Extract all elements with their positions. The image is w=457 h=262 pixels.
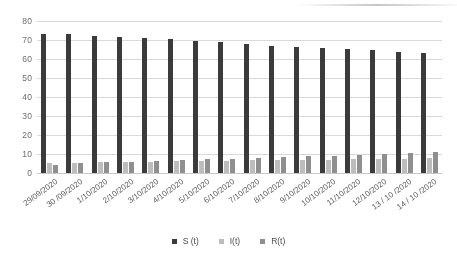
bar-s	[193, 41, 198, 173]
bar-group	[366, 21, 391, 173]
bar-group	[113, 21, 138, 173]
bar-group	[88, 21, 113, 173]
legend-label: I(t)	[230, 236, 240, 246]
bar-s	[320, 48, 325, 173]
bar-s	[66, 34, 71, 173]
bars-layer	[37, 21, 442, 173]
bar-group	[214, 21, 239, 173]
bar-s	[92, 36, 97, 173]
bar-s	[370, 50, 375, 173]
y-tick-label: 0	[27, 168, 32, 178]
bar-group	[240, 21, 265, 173]
bar-i	[250, 160, 255, 173]
y-tick-label: 10	[22, 149, 32, 159]
bar-r	[154, 161, 159, 173]
bar-i	[98, 162, 103, 173]
y-tick-label: 50	[22, 73, 32, 83]
legend-item-s[interactable]: S (t)	[172, 236, 199, 246]
bar-group	[315, 21, 340, 173]
bar-r	[357, 155, 362, 173]
bar-group	[341, 21, 366, 173]
bar-i	[148, 162, 153, 173]
bar-i	[123, 162, 128, 173]
bar-i	[174, 161, 179, 173]
bar-i	[300, 160, 305, 173]
bar-r	[433, 152, 438, 173]
bar-i	[47, 163, 52, 173]
bar-r	[104, 162, 109, 173]
bar-s	[294, 47, 299, 173]
bar-i	[224, 161, 229, 173]
bar-s	[142, 38, 147, 173]
bar-r	[408, 153, 413, 173]
y-tick-label: 60	[22, 54, 32, 64]
bar-r	[230, 159, 235, 173]
bar-s	[421, 53, 426, 173]
bar-i	[326, 160, 331, 173]
bar-group	[189, 21, 214, 173]
y-tick-label: 80	[22, 16, 32, 26]
bar-s	[168, 39, 173, 173]
scan-artifact	[297, 4, 457, 6]
y-tick-label: 20	[22, 130, 32, 140]
legend-swatch-icon	[260, 239, 265, 244]
bar-i	[427, 158, 432, 173]
bar-group	[164, 21, 189, 173]
bar-group	[417, 21, 442, 173]
bar-r	[180, 160, 185, 173]
legend-item-r[interactable]: R(t)	[260, 236, 285, 246]
bar-s	[345, 49, 350, 173]
bar-r	[256, 158, 261, 173]
bar-group	[290, 21, 315, 173]
bar-i	[72, 163, 77, 173]
bar-r	[129, 162, 134, 173]
legend-label: R(t)	[271, 236, 285, 246]
bar-s	[218, 42, 223, 173]
bar-r	[382, 154, 387, 173]
bar-r	[281, 157, 286, 173]
bar-i	[376, 159, 381, 173]
bar-r	[78, 163, 83, 173]
bar-i	[275, 160, 280, 173]
bar-s	[396, 52, 401, 173]
bar-i	[351, 159, 356, 173]
chart-legend: S (t)I(t)R(t)	[0, 236, 457, 246]
bar-s	[244, 44, 249, 173]
bar-i	[402, 159, 407, 173]
y-tick-label: 70	[22, 35, 32, 45]
bar-s	[41, 34, 46, 173]
y-axis-labels: 01020304050607080	[0, 0, 37, 174]
bar-r	[332, 156, 337, 173]
bar-group	[37, 21, 62, 173]
legend-swatch-icon	[219, 239, 224, 244]
y-tick-label: 40	[22, 92, 32, 102]
legend-swatch-icon	[172, 239, 177, 244]
bar-i	[199, 161, 204, 173]
bar-s	[117, 37, 122, 173]
legend-item-i[interactable]: I(t)	[219, 236, 240, 246]
bar-group	[138, 21, 163, 173]
x-axis-labels: 29/09/202030 /09/20201/10/20202/10/20203…	[37, 174, 442, 232]
bar-group	[391, 21, 416, 173]
bar-group	[265, 21, 290, 173]
legend-label: S (t)	[183, 236, 199, 246]
bar-s	[269, 46, 274, 173]
bar-r	[306, 156, 311, 173]
bar-r	[205, 159, 210, 173]
bar-group	[62, 21, 87, 173]
bar-r	[53, 165, 58, 173]
sir-bar-chart: 01020304050607080 29/09/202030 /09/20201…	[0, 0, 457, 262]
y-tick-label: 30	[22, 111, 32, 121]
